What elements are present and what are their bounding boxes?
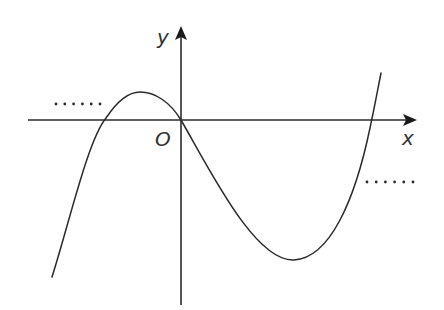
ellipsis-right — [366, 181, 415, 184]
y-axis-label: y — [156, 25, 170, 49]
function-graph: y x O — [0, 0, 444, 310]
ellipsis-left — [55, 103, 102, 106]
origin-label: O — [155, 127, 171, 151]
x-axis-label: x — [401, 126, 414, 150]
cubic-curve — [52, 73, 381, 277]
